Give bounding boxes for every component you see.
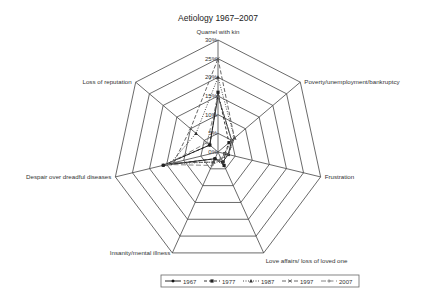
axis-label: Insanity/mental illness [110,249,171,256]
svg-text:1967: 1967 [183,279,197,285]
radar-axis-labels: Quarrel with kinPoverty/unemployment/ban… [26,28,400,264]
radar-series [161,57,236,167]
svg-text:1977: 1977 [222,279,236,285]
axis-label: Despair over dreadful diseases [26,173,111,180]
series-1977 [162,91,231,167]
radar-chart: Aetiology 1967–2007 0%5%10%15%20%25%30% … [0,0,428,307]
series-1987 [168,75,236,165]
axis-label: Frustration [325,173,355,180]
tick-label: 30% [205,37,218,43]
radar-axes [115,40,320,253]
svg-text:1987: 1987 [261,279,275,285]
axis-spoke [218,152,321,177]
axis-label: Poverty/unemployment/bankruptcy [304,78,400,85]
tick-label: 15% [205,93,218,99]
chart-title: Aetiology 1967–2007 [178,13,258,23]
chart-legend: 19671977198719972007 [161,275,359,287]
tick-label: 0% [208,149,217,155]
tick-label: 10% [205,112,218,118]
axis-label: Love affairs/ loss of loved one [266,257,348,264]
svg-text:1997: 1997 [300,279,314,285]
svg-text:2007: 2007 [339,279,353,285]
axis-label: Loss of reputation [82,78,132,85]
axis-label: Quarrel with kin [197,28,241,35]
tick-label: 25% [205,56,218,62]
tick-label: 20% [205,74,218,80]
